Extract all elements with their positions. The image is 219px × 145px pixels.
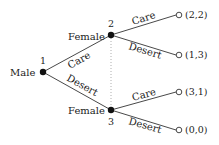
action-label-desert-3: Desert [127, 115, 163, 135]
game-tree-diagram: Male Female Female 1 2 3 Care Desert Car… [0, 0, 219, 145]
player-label-male: Male [10, 67, 35, 78]
player-label-female-top: Female [68, 31, 105, 42]
terminal-node-1 [176, 12, 182, 18]
node-number-3: 3 [108, 116, 114, 127]
node-number-1: 1 [40, 55, 46, 66]
payoff-1: (2,2) [185, 9, 208, 20]
player-label-female-bottom: Female [68, 105, 105, 116]
terminal-node-2 [176, 52, 182, 58]
decision-node-3 [108, 107, 114, 113]
terminal-node-3 [176, 89, 182, 95]
payoff-3: (3,1) [185, 86, 208, 97]
decision-node-2 [108, 32, 114, 38]
action-label-care-3: Care [131, 86, 157, 103]
action-label-desert-2: Desert [127, 40, 163, 60]
node-number-2: 2 [108, 18, 114, 29]
decision-node-1 [40, 69, 46, 75]
action-label-care-2: Care [130, 9, 157, 27]
payoff-4: (0,0) [185, 124, 208, 135]
payoff-2: (1,3) [185, 49, 208, 60]
terminal-node-4 [176, 127, 182, 133]
